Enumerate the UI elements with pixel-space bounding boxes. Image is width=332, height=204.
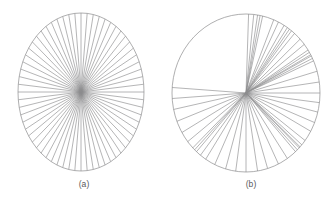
spoke-line [246,50,308,93]
radial-spoke-diagram-b [166,0,332,178]
spoke-line [81,92,121,153]
spoke-line [196,93,246,152]
spoke-line [172,87,246,93]
radial-spoke-diagram-a [0,0,166,178]
spoke-line [81,42,130,92]
spoke-line [182,93,246,133]
spoke-line [206,93,246,159]
figure-root: (a) (b) [0,0,332,204]
spoke-line [246,93,305,141]
spoke-line [246,93,297,150]
spoke-line [41,92,81,153]
spoke-line [81,92,130,142]
panel-a-caption: (a) [0,179,167,190]
spoke-group [18,13,144,171]
spoke-line [81,31,121,92]
panel-a: (a) [0,0,166,204]
spoke-line [41,31,81,92]
spoke-line [32,42,81,92]
panel-b: (b) [166,0,332,204]
panel-b-caption: (b) [166,179,332,190]
spoke-line [193,93,246,148]
spoke-line [246,56,311,93]
spoke-line [246,29,290,93]
spoke-line [188,93,246,142]
spoke-line [246,93,278,164]
spoke-line [32,92,81,142]
spoke-group [172,14,320,172]
